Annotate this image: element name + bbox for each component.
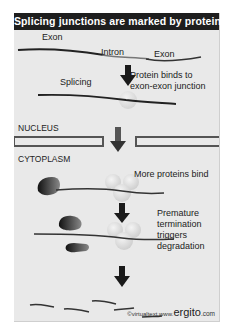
diagram-panel: Splicing junctions are marked by protein… <box>14 13 220 322</box>
label-protein-binds-2: exon-exon junction <box>130 81 206 91</box>
label-exon-left: Exon <box>42 32 63 42</box>
label-nucleus: NUCLEUS <box>18 123 59 133</box>
label-cytoplasm: CYTOPLASM <box>18 154 70 164</box>
credit-com: .com <box>201 310 215 317</box>
label-premature-3: triggers <box>157 230 187 240</box>
label-protein-binds-1: Protein binds to <box>130 70 193 80</box>
label-premature-4: degradation <box>157 241 205 251</box>
diagram-artwork <box>14 13 219 321</box>
down-arrow-icon <box>114 203 130 223</box>
credit-line: ©virtualtext www.ergito.com <box>127 306 215 318</box>
label-more-proteins: More proteins bind <box>134 169 209 179</box>
down-arrow-icon <box>114 266 130 287</box>
label-intron: Intron <box>101 47 124 57</box>
down-arrow-icon <box>110 127 126 152</box>
credit-virtualtext: ©virtualtext <box>127 311 157 317</box>
credit-ergito: ergito <box>173 306 201 318</box>
label-splicing: Splicing <box>60 77 92 87</box>
spliced-mrna <box>38 91 176 109</box>
label-exon-right: Exon <box>154 49 175 59</box>
label-premature-1: Premature <box>157 208 199 218</box>
credit-www: www. <box>159 311 173 317</box>
premature-termination <box>34 216 174 252</box>
label-premature-2: termination <box>157 219 202 229</box>
